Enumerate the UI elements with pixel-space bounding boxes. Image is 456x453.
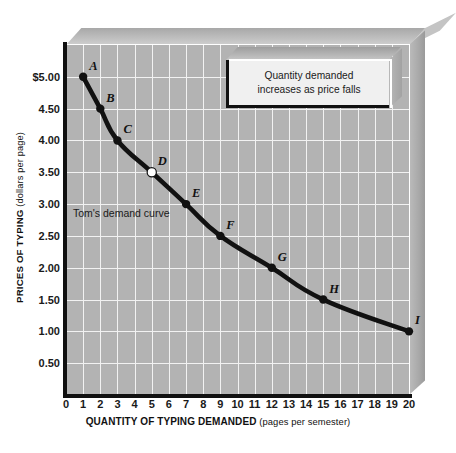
data-point-d: [147, 168, 156, 177]
point-label-h: H: [329, 283, 339, 296]
point-label-b: B: [106, 92, 114, 105]
point-label-e: E: [192, 187, 200, 200]
demand-curve-line: [83, 77, 409, 332]
data-point-b: [96, 104, 104, 112]
x-tick-label: 20: [399, 399, 419, 410]
data-point-g: [268, 264, 276, 272]
y-axis-title: PRICES OF TYPING (dollars per page): [14, 103, 25, 333]
data-point-i: [405, 327, 413, 335]
point-label-i: I: [415, 314, 420, 327]
point-label-f: F: [226, 219, 234, 232]
curve-annotation: Tom's demand curve: [73, 207, 170, 219]
y-tick-label: $5.00: [16, 72, 60, 83]
x-axis-title-bold: QUANTITY OF TYPING DEMANDED: [86, 416, 257, 427]
x-axis-title: QUANTITY OF TYPING DEMANDED (pages per s…: [0, 416, 436, 427]
point-label-a: A: [89, 60, 97, 73]
x-axis-title-sub: (pages per semester): [257, 416, 351, 427]
y-axis-title-bold: PRICES OF TYPING: [14, 210, 25, 303]
data-point-e: [182, 200, 190, 208]
point-label-g: G: [278, 251, 287, 264]
data-point-a: [79, 73, 87, 81]
point-label-c: C: [123, 123, 131, 136]
data-point-h: [319, 295, 327, 303]
y-tick-label: 0.50: [16, 358, 60, 369]
y-axis-title-sub: (dollars per page): [15, 132, 25, 209]
point-label-d: D: [158, 155, 167, 168]
data-point-c: [113, 136, 121, 144]
data-point-f: [216, 232, 224, 240]
